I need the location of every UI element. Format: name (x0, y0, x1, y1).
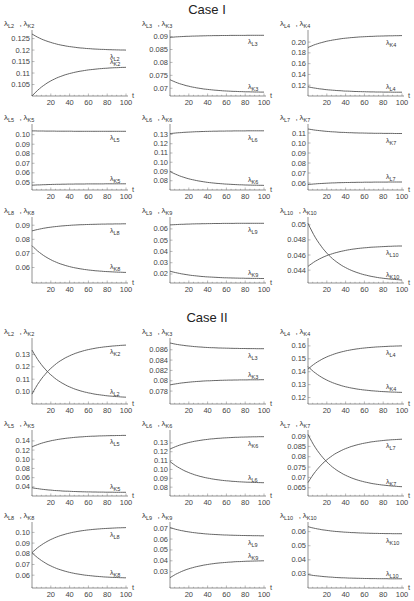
svg-text:λK3: λK3 (248, 83, 258, 92)
svg-text:20: 20 (185, 192, 193, 201)
chart-panel: λL2,λK220406080100t0.1050.110.1150.120.1… (0, 18, 138, 110)
svg-text:λK6: λK6 (162, 419, 173, 429)
svg-text:80: 80 (103, 590, 111, 599)
svg-text:0.046: 0.046 (287, 251, 306, 260)
svg-text:,: , (158, 113, 160, 122)
svg-text:0.14: 0.14 (15, 436, 30, 445)
svg-text:λL9: λL9 (142, 206, 152, 216)
svg-text:t: t (408, 91, 411, 100)
svg-text:20: 20 (185, 590, 193, 599)
chart-panel: λL3,λK320406080100t0.0780.080.0820.0840.… (138, 326, 276, 418)
svg-text:λK10: λK10 (303, 511, 317, 521)
svg-text:λL3: λL3 (248, 38, 258, 47)
svg-text:100: 100 (396, 285, 409, 294)
svg-text:20: 20 (185, 406, 193, 415)
svg-text:,: , (296, 419, 298, 428)
svg-text:0.11: 0.11 (154, 148, 168, 157)
svg-text:λK2: λK2 (24, 19, 35, 29)
svg-text:λL4: λL4 (386, 349, 396, 358)
svg-text:0.08: 0.08 (153, 58, 168, 67)
y-axis-label: λL2,λK2 (4, 327, 34, 337)
svg-text:,: , (158, 511, 160, 520)
svg-text:80: 80 (379, 192, 387, 201)
svg-text:0.08: 0.08 (153, 176, 168, 185)
svg-text:40: 40 (65, 498, 73, 507)
svg-text:40: 40 (65, 406, 73, 415)
svg-text:40: 40 (341, 285, 349, 294)
svg-text:,: , (20, 206, 22, 215)
svg-text:λK10: λK10 (303, 206, 317, 216)
svg-text:0.10: 0.10 (153, 465, 168, 474)
svg-text:,: , (20, 327, 22, 336)
svg-text:λL2: λL2 (4, 327, 14, 337)
svg-text:0.04: 0.04 (153, 247, 168, 256)
svg-text:λK4: λK4 (300, 327, 311, 337)
y-axis-label: λL8,λK8 (4, 511, 34, 521)
svg-text:80: 80 (379, 406, 387, 415)
svg-text:λL8: λL8 (110, 531, 120, 540)
svg-text:0.07: 0.07 (15, 560, 30, 569)
svg-text:0.14: 0.14 (291, 367, 306, 376)
svg-text:0.12: 0.12 (291, 81, 306, 90)
svg-text:t: t (132, 91, 135, 100)
svg-text:80: 80 (241, 192, 249, 201)
svg-text:0.10: 0.10 (15, 455, 30, 464)
series-line (308, 527, 402, 534)
svg-text:60: 60 (84, 498, 92, 507)
svg-text:0.15: 0.15 (291, 354, 306, 363)
svg-text:0.085: 0.085 (287, 442, 306, 451)
svg-text:0.12: 0.12 (153, 447, 168, 456)
svg-text:λL6: λL6 (142, 113, 152, 123)
svg-text:t: t (132, 491, 135, 500)
svg-text:0.03: 0.03 (153, 567, 168, 576)
svg-text:0.05: 0.05 (15, 178, 30, 187)
y-axis-label: λL3,λK3 (142, 327, 172, 337)
svg-text:0.06: 0.06 (153, 224, 168, 233)
svg-text:0.10: 0.10 (15, 387, 30, 396)
series-line (32, 67, 126, 96)
svg-text:0.06: 0.06 (15, 571, 30, 580)
svg-text:λK6: λK6 (162, 113, 173, 123)
svg-text:0.07: 0.07 (153, 524, 168, 533)
svg-text:80: 80 (379, 498, 387, 507)
svg-text:,: , (158, 206, 160, 215)
svg-text:100: 100 (258, 192, 271, 201)
svg-text:0.10: 0.10 (15, 130, 30, 139)
svg-text:0.125: 0.125 (11, 34, 30, 43)
svg-text:0.08: 0.08 (15, 464, 30, 473)
svg-text:0.03: 0.03 (291, 569, 306, 578)
y-axis-label: λL2,λK2 (4, 19, 34, 29)
svg-text:40: 40 (341, 406, 349, 415)
y-axis-label: λL6,λK6 (142, 113, 172, 123)
svg-text:λK9: λK9 (162, 206, 173, 216)
svg-text:,: , (20, 19, 22, 28)
chart-panel: λL6,λK620406080100t0.080.090.100.110.120… (138, 112, 276, 204)
svg-text:60: 60 (360, 590, 368, 599)
svg-text:100: 100 (258, 590, 271, 599)
svg-text:0.06: 0.06 (15, 473, 30, 482)
svg-text:,: , (158, 419, 160, 428)
svg-text:,: , (299, 511, 301, 520)
svg-text:20: 20 (47, 285, 55, 294)
series-line (170, 561, 264, 578)
svg-text:20: 20 (323, 285, 331, 294)
svg-text:λL10: λL10 (280, 511, 293, 521)
svg-text:0.084: 0.084 (149, 356, 168, 365)
svg-text:100: 100 (120, 406, 133, 415)
svg-text:0.10: 0.10 (291, 139, 306, 148)
svg-text:60: 60 (360, 285, 368, 294)
svg-text:0.04: 0.04 (153, 556, 168, 565)
svg-text:0.09: 0.09 (153, 167, 168, 176)
svg-text:0.08: 0.08 (291, 452, 306, 461)
svg-text:λK9: λK9 (162, 511, 173, 521)
svg-text:t: t (270, 278, 273, 287)
svg-text:,: , (296, 327, 298, 336)
svg-text:80: 80 (103, 285, 111, 294)
y-axis-label: λL4,λK4 (280, 19, 310, 29)
svg-text:t: t (270, 491, 273, 500)
svg-text:20: 20 (185, 498, 193, 507)
svg-text:λL5: λL5 (110, 438, 120, 447)
svg-text:0.09: 0.09 (291, 432, 306, 441)
y-axis-label: λL10,λK10 (280, 206, 317, 216)
svg-text:λL8: λL8 (4, 511, 14, 521)
